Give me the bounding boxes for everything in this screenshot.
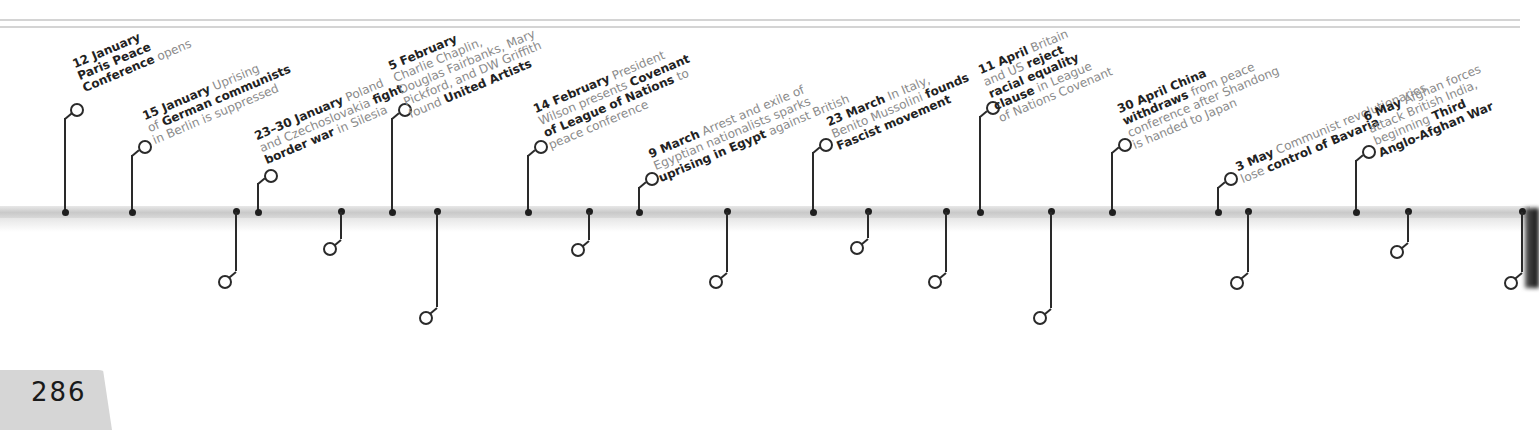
event-marker-ring-icon xyxy=(1118,138,1132,152)
event-anchor-dot-icon xyxy=(1353,209,1360,216)
timeline-axis-shadow xyxy=(0,218,1530,232)
event-label: 11 April Britain and US reject racial eq… xyxy=(977,17,1115,125)
event-text: Egyptian nationalists sparks xyxy=(651,94,812,173)
event-stem xyxy=(1111,152,1113,212)
event-stem xyxy=(131,155,133,212)
event-stem xyxy=(1355,160,1357,212)
event-anchor-dot-icon xyxy=(389,209,396,216)
event-marker-ring-icon xyxy=(70,103,84,117)
event-marker-ring-icon xyxy=(264,169,278,183)
event-marker-ring-icon xyxy=(571,243,585,257)
event-marker-ring-icon xyxy=(218,275,232,289)
event-anchor-dot-icon xyxy=(1215,209,1222,216)
event-stem xyxy=(257,183,259,212)
event-stem xyxy=(867,212,869,238)
event-anchor-dot-icon xyxy=(62,209,69,216)
event-marker-ring-icon xyxy=(1504,276,1518,290)
event-stem xyxy=(588,212,590,240)
event-anchor-dot-icon xyxy=(525,209,532,216)
event-label: 23 March In Italy, Benito Mussolini foun… xyxy=(825,59,976,153)
event-marker-ring-icon xyxy=(1230,276,1244,290)
header-rule-bottom xyxy=(0,26,1520,28)
event-anchor-dot-icon xyxy=(810,209,817,216)
page-binding-edge xyxy=(1525,208,1539,288)
event-stem xyxy=(527,155,529,212)
header-rule-top xyxy=(0,19,1520,21)
event-anchor-dot-icon xyxy=(255,209,262,216)
event-anchor-dot-icon xyxy=(977,209,984,216)
event-stem xyxy=(812,152,814,212)
event-marker-ring-icon xyxy=(419,311,433,325)
event-marker-ring-icon xyxy=(534,140,548,154)
event-marker-ring-icon xyxy=(1033,311,1047,325)
event-anchor-dot-icon xyxy=(1109,209,1116,216)
event-marker-ring-icon xyxy=(1390,245,1404,259)
event-marker-ring-icon xyxy=(819,138,833,152)
event-label: 6 May Afghan forces attack British India… xyxy=(1362,63,1499,160)
event-stem xyxy=(1050,212,1052,308)
event-marker-ring-icon xyxy=(323,242,337,256)
event-stem xyxy=(945,212,947,272)
event-marker-ring-icon xyxy=(1224,172,1238,186)
event-stem xyxy=(64,118,66,212)
event-stem xyxy=(391,118,393,212)
event-anchor-dot-icon xyxy=(636,209,643,216)
event-stem xyxy=(1521,212,1523,272)
event-anchor-dot-icon xyxy=(129,209,136,216)
event-marker-ring-icon xyxy=(850,241,864,255)
event-stem xyxy=(979,116,981,212)
event-label: 30 April China withdraws from peace conf… xyxy=(1116,40,1287,152)
event-marker-ring-icon xyxy=(1362,145,1376,159)
event-marker-ring-icon xyxy=(928,275,942,289)
event-stem xyxy=(1407,212,1409,242)
event-marker-ring-icon xyxy=(138,140,152,154)
page-number: 286 xyxy=(31,377,87,407)
event-stem xyxy=(726,212,728,272)
timeline-axis xyxy=(0,206,1530,218)
event-stem xyxy=(235,212,237,271)
event-stem xyxy=(1247,212,1249,272)
event-stem xyxy=(340,212,342,239)
event-marker-ring-icon xyxy=(709,275,723,289)
event-stem xyxy=(436,212,438,307)
